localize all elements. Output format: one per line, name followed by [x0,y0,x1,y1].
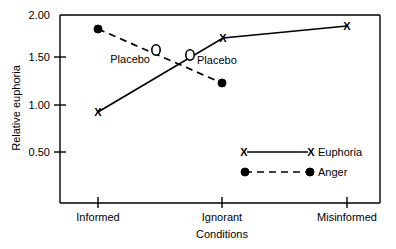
anger-point-informed [94,25,102,33]
placebo-marker-euphoria [186,50,194,60]
x-tick-label-ignorant: Ignorant [202,211,242,223]
x-tick-label-informed: Informed [76,211,119,223]
euphoria-point-misinformed-marker: X [343,20,351,32]
placebo-label-left: Placebo [110,53,150,65]
y-tick-label-1: 1.50 [29,51,50,63]
legend-item-anger[interactable]: Anger [241,166,348,178]
legend-marker-anger-right [306,168,314,176]
y-tick-label-3: 0.50 [29,146,50,158]
legend-label-anger: Anger [318,166,348,178]
y-tick-label-0: 2.00 [29,9,50,21]
x-axis-title: Conditions [196,228,248,240]
legend-marker-euphoria-left: X [240,146,248,158]
placebo-label-right: Placebo [197,54,237,66]
y-axis-tick-labels: 2.00 1.50 1.00 0.50 [29,9,50,158]
legend-item-euphoria[interactable]: X X Euphoria [240,146,363,158]
chart-canvas: 2.00 1.50 1.00 0.50 Relative euphoria In… [0,0,396,249]
legend-marker-anger-left [241,168,249,176]
chart-figure: 2.00 1.50 1.00 0.50 Relative euphoria In… [0,0,396,249]
placebo-annotations: Placebo Placebo [110,45,237,66]
euphoria-point-informed-marker: X [94,106,102,118]
legend-marker-euphoria-right: X [307,146,315,158]
chart-legend: X X Euphoria Anger [240,146,363,178]
legend-label-euphoria: Euphoria [318,146,363,158]
series-euphoria: X X X [94,20,351,118]
x-tick-label-misinformed: Misinformed [317,211,377,223]
placebo-marker-anger [152,45,160,55]
y-tick-label-2: 1.00 [29,99,50,111]
euphoria-point-ignorant-marker: X [219,32,227,44]
y-axis-title: Relative euphoria [10,64,22,150]
x-axis-tick-labels: Informed Ignorant Misinformed [76,211,377,223]
anger-point-ignorant [218,79,226,87]
